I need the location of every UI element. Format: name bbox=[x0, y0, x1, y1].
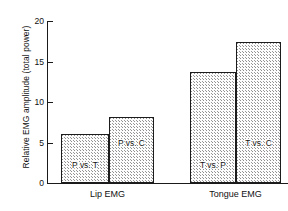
y-tick-label: 10 bbox=[34, 97, 44, 107]
bar-label: P vs. T bbox=[72, 160, 98, 170]
bar: P vs. T bbox=[61, 134, 109, 183]
bar: T vs. P bbox=[190, 72, 236, 183]
y-tick-label: 5 bbox=[39, 138, 44, 148]
bar: T vs. C bbox=[236, 42, 281, 183]
y-tick-mark bbox=[48, 143, 53, 144]
x-axis-category-label: Tongue EMG bbox=[209, 189, 262, 199]
bar-label: T vs. C bbox=[245, 138, 271, 148]
y-tick-mark bbox=[48, 102, 53, 103]
y-tick-label: 15 bbox=[34, 57, 44, 67]
y-axis-label: Relative EMG amplitude (total power) bbox=[21, 7, 31, 187]
y-tick-mark bbox=[48, 21, 53, 22]
y-tick-mark bbox=[48, 62, 53, 63]
y-tick-label: 20 bbox=[34, 16, 44, 26]
bar-label: T vs. P bbox=[200, 160, 226, 170]
bar: P vs. C bbox=[109, 117, 154, 183]
plot-area: 0 5 10 15 20 P vs. T P vs. C T vs. P T v… bbox=[47, 21, 288, 184]
x-axis-category-label: Lip EMG bbox=[90, 189, 125, 199]
y-tick-mark bbox=[48, 183, 53, 184]
chart-figure: Relative EMG amplitude (total power) 0 5… bbox=[0, 0, 288, 211]
bar-label: P vs. C bbox=[118, 138, 145, 148]
x-axis-line bbox=[47, 183, 288, 184]
y-tick-label: 0 bbox=[39, 178, 44, 188]
